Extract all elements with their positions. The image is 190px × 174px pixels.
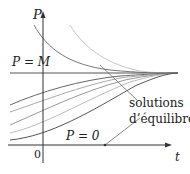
p-equals-m-label: P = M [12,56,50,68]
annotation-solutions: solutions [129,97,184,109]
annotation-equilibre: d’équilibre [129,113,190,125]
origin-label: 0 [34,149,41,160]
curve-decay-light [70,25,178,73]
diagram-graphics [0,0,190,174]
pointer-dot [104,144,107,147]
t-axis-arrow [165,143,172,148]
p-axis-label: P [33,8,42,21]
p-equals-zero-label: P = 0 [66,130,99,142]
logistic-solutions-diagram: P t 0 P = M P = 0 solutions d’équilibre [0,0,190,174]
pointer-to-m [100,65,137,100]
curve-decay-dark [34,25,178,73]
t-axis-label: t [175,151,180,163]
